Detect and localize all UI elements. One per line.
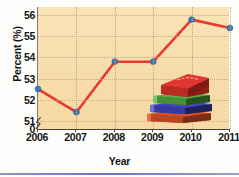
x-axis-tick-mark: [229, 129, 230, 132]
gridline-vertical: [115, 7, 116, 129]
y-axis-tick-label: 52: [17, 95, 35, 106]
x-axis-tick-mark: [75, 129, 76, 132]
x-axis-line: [37, 129, 230, 130]
gridline-horizontal: [38, 57, 229, 58]
x-axis-tick-mark: [191, 129, 192, 132]
x-axis-tick-label: 2008: [94, 132, 134, 143]
x-axis-tick-mark: [37, 129, 38, 132]
x-axis-tick-label: 2007: [55, 132, 95, 143]
y-axis-tick-label: 54: [17, 52, 35, 63]
x-axis-tick-label: 2006: [17, 132, 57, 143]
x-axis-title: Year: [0, 155, 239, 167]
book-top-red-icon: [161, 74, 209, 97]
bottom-rule: [0, 173, 239, 175]
y-axis-tick-label: 53: [17, 74, 35, 85]
x-axis-tick-label: 2011: [209, 132, 239, 143]
x-axis-tick-label: 2009: [132, 132, 172, 143]
gridline-horizontal: [38, 36, 229, 37]
y-axis-tick-labels: 5655545352510: [17, 0, 35, 177]
gridline-vertical: [230, 7, 231, 129]
data-point-marker[interactable]: [35, 86, 41, 92]
gridline-horizontal: [38, 15, 229, 16]
y-axis-tick-label: 55: [17, 31, 35, 42]
x-axis-tick-label: 2010: [171, 132, 211, 143]
x-axis-tick-labels: 200620072008200920102011: [0, 132, 239, 148]
line-chart-figure: Percent (%) 5655545352510 20062007200820…: [0, 0, 239, 177]
stack-of-books-illustration: [143, 70, 215, 128]
y-axis-tick-label: 56: [17, 10, 35, 21]
x-axis-tick-mark: [114, 129, 115, 132]
gridline-vertical: [76, 7, 77, 129]
x-axis-tick-mark: [152, 129, 153, 132]
